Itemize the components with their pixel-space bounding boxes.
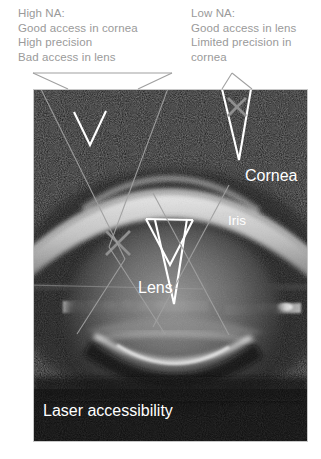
callout-left-edge xyxy=(33,73,68,89)
figure-root: High NA: Good access in cornea High prec… xyxy=(0,0,321,459)
caption-low-na: Low NA: Good access in lens Limited prec… xyxy=(191,6,319,64)
oct-image-panel: Cornea Iris Lens Laser accessibility xyxy=(33,89,308,442)
callout-lownafunnel-left xyxy=(222,73,232,89)
label-lens: Lens xyxy=(138,279,173,296)
callout-right-edge xyxy=(138,73,172,89)
label-laser-accessibility: Laser accessibility xyxy=(43,402,173,419)
callout-lownafunnel-right xyxy=(232,73,252,89)
caption-high-na: High NA: Good access in cornea High prec… xyxy=(18,6,178,64)
label-cornea: Cornea xyxy=(245,167,298,184)
label-iris: Iris xyxy=(228,213,246,228)
oct-image: Cornea Iris Lens Laser accessibility xyxy=(33,89,308,442)
